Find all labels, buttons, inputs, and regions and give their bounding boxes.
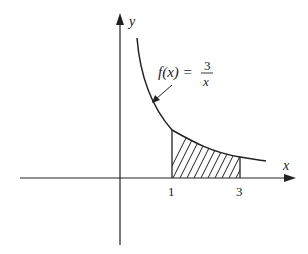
area-under-curve-diagram: f(x) = 3 x y x 1 3: [0, 0, 308, 254]
tick-label-3: 3: [236, 184, 243, 199]
function-denominator: x: [202, 74, 209, 89]
x-axis-arrow-icon: [284, 174, 296, 182]
x-axis-label: x: [282, 158, 290, 173]
y-axis: [116, 13, 124, 245]
function-label: f(x) =: [158, 64, 193, 81]
tick-label-1: 1: [168, 184, 175, 199]
label-pointer: [152, 85, 172, 103]
y-axis-label: y: [127, 14, 136, 29]
x-axis: [20, 174, 296, 182]
y-axis-arrow-icon: [116, 13, 124, 25]
function-numerator: 3: [204, 58, 211, 73]
